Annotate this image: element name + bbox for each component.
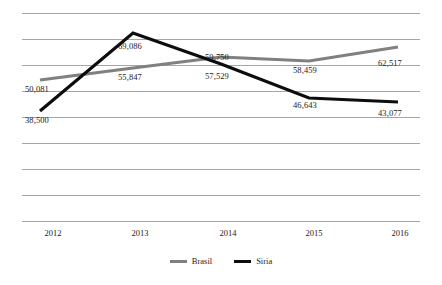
legend-swatch-siria-icon [234,260,251,263]
data-label-siria-2013: 69,086 [118,41,142,51]
x-axis-tick-2015: 2015 [306,228,323,238]
gridlines [22,14,420,222]
x-axis-tick-2014: 2014 [220,228,237,238]
chart-plot-area [0,0,442,285]
data-label-brasil-2015: 58,459 [293,65,317,75]
data-label-brasil-2012: 50,081 [25,84,49,94]
chart-legend: Brasil Siria [0,256,442,266]
data-label-siria-2014: 57,529 [205,71,229,81]
data-label-siria-2016: 43,077 [378,108,402,118]
data-label-brasil-2016: 62,517 [378,58,402,68]
x-axis-tick-2016: 2016 [392,228,409,238]
legend-label-brasil: Brasil [192,256,212,266]
legend-entry-brasil[interactable]: Brasil [170,256,212,266]
legend-label-siria: Siria [256,256,272,266]
data-label-siria-2015: 46,643 [293,100,317,110]
x-axis-tick-2012: 2012 [45,228,62,238]
line-chart: 50,081 55,847 59,750 58,459 62,517 38,50… [0,0,442,285]
x-axis-tick-2013: 2013 [132,228,149,238]
data-label-brasil-2013: 55,847 [118,72,142,82]
data-label-brasil-2014: 59,750 [205,52,229,62]
legend-entry-siria[interactable]: Siria [234,256,272,266]
legend-swatch-brasil-icon [170,260,187,263]
data-label-siria-2012: 38,500 [25,115,49,125]
